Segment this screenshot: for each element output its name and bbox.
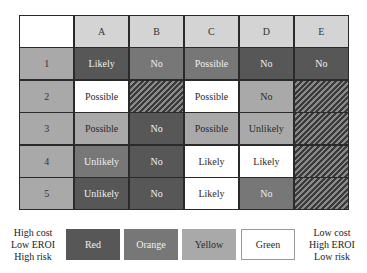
cell-1c: Possible — [185, 48, 238, 79]
cell-2d: No — [240, 81, 293, 112]
corner-cell — [20, 16, 73, 47]
cell-1a: Likely — [75, 48, 128, 79]
legend-right-line-1: Low cost — [300, 227, 364, 239]
legend-right-label: Low cost High EROI Low risk — [300, 227, 364, 263]
legend-green: Green — [241, 229, 295, 260]
cell-4d: Likely — [240, 146, 293, 177]
column-header-c: C — [185, 16, 238, 47]
legend-right-line-2: High EROI — [300, 239, 364, 251]
cell-3e-hatched — [295, 113, 348, 144]
cell-5e-hatched — [295, 178, 348, 209]
column-header-d: D — [240, 16, 293, 47]
row-label-1: 1 — [20, 48, 73, 79]
cell-3a: Possible — [75, 113, 128, 144]
cell-1b: No — [130, 48, 183, 79]
cell-3d: Unlikely — [240, 113, 293, 144]
legend-right-line-3: Low risk — [300, 251, 364, 263]
legend-red: Red — [66, 229, 120, 260]
row-label-3: 3 — [20, 113, 73, 144]
legend-orange: Orange — [124, 229, 178, 260]
cell-5a: Unlikely — [75, 178, 128, 209]
legend-left-label: High cost Low EROI High risk — [3, 227, 63, 263]
column-header-e: E — [295, 16, 348, 47]
cell-5c: Likely — [185, 178, 238, 209]
cell-1d: No — [240, 48, 293, 79]
assessment-matrix: A B C D E 1 Likely No Possible No No 2 P… — [19, 15, 349, 210]
cell-4a: Unlikely — [75, 146, 128, 177]
row-label-2: 2 — [20, 81, 73, 112]
cell-4c: Likely — [185, 146, 238, 177]
cell-1e: No — [295, 48, 348, 79]
row-label-4: 4 — [20, 146, 73, 177]
legend-left-line-1: High cost — [3, 227, 63, 239]
legend-yellow: Yellow — [182, 229, 236, 260]
legend-left-line-3: High risk — [3, 251, 63, 263]
cell-2e-hatched — [295, 81, 348, 112]
cell-4e-hatched — [295, 146, 348, 177]
legend-left-line-2: Low EROI — [3, 239, 63, 251]
cell-4b: No — [130, 146, 183, 177]
cell-3b: No — [130, 113, 183, 144]
cell-2a: Possible — [75, 81, 128, 112]
cell-2c: Possible — [185, 81, 238, 112]
cell-2b-hatched — [130, 81, 183, 112]
row-label-5: 5 — [20, 178, 73, 209]
column-header-b: B — [130, 16, 183, 47]
cell-3c: Possible — [185, 113, 238, 144]
column-header-a: A — [75, 16, 128, 47]
cell-5d: No — [240, 178, 293, 209]
cell-5b: No — [130, 178, 183, 209]
